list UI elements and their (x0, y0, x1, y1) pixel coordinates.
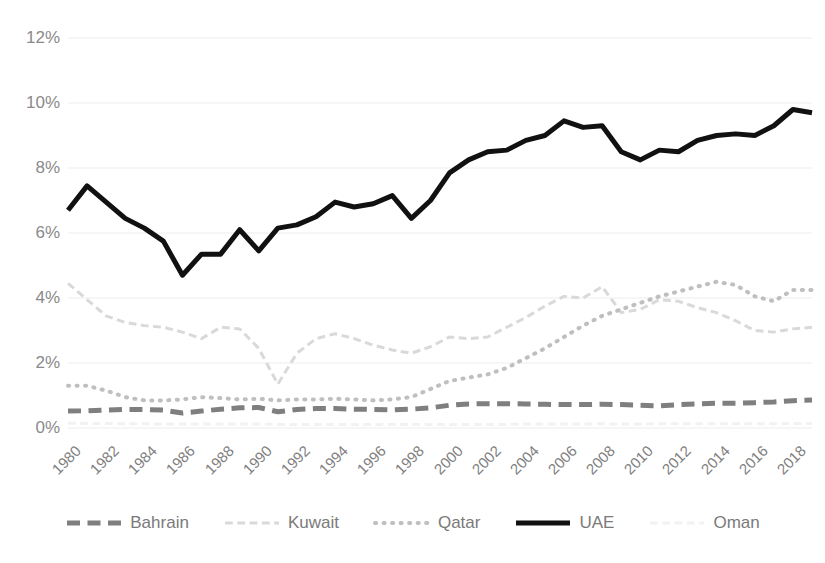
legend-label: Kuwait (288, 513, 339, 533)
x-tick-label: 2002 (463, 442, 503, 482)
x-tick-label: 2016 (730, 442, 770, 482)
x-tick-label: 2014 (692, 442, 732, 482)
legend-label: Bahrain (130, 513, 189, 533)
x-tick-label: 2012 (654, 442, 694, 482)
legend-item-kuwait[interactable]: Kuwait (223, 508, 339, 538)
chart-legend: BahrainKuwaitQatarUAEOman (0, 505, 825, 541)
legend-label: UAE (579, 513, 614, 533)
x-tick-label: 2018 (769, 442, 809, 482)
x-axis: 1980198219841986198819901992199419961998… (0, 0, 825, 563)
legend-item-uae[interactable]: UAE (514, 508, 614, 538)
x-tick-label: 2008 (578, 442, 618, 482)
solid-marker (514, 516, 572, 530)
x-tick-label: 1988 (196, 442, 236, 482)
x-tick-label: 1984 (120, 442, 160, 482)
x-tick-label: 1998 (387, 442, 427, 482)
x-tick-label: 2010 (616, 442, 656, 482)
x-tick-label: 2004 (502, 442, 542, 482)
dot-marker (373, 516, 431, 530)
x-tick-label: 1996 (349, 442, 389, 482)
x-tick-label: 2000 (425, 442, 465, 482)
dash-marker-faint (648, 516, 706, 530)
x-tick-label: 1986 (158, 442, 198, 482)
x-tick-label: 1982 (82, 442, 122, 482)
x-tick-label: 1992 (273, 442, 313, 482)
legend-item-oman[interactable]: Oman (648, 508, 759, 538)
x-tick-label: 2006 (540, 442, 580, 482)
line-chart: 12%10%8%6%4%2%0% 19801982198419861988199… (0, 0, 825, 563)
legend-label: Oman (713, 513, 759, 533)
x-tick-label: 1994 (311, 442, 351, 482)
legend-item-qatar[interactable]: Qatar (373, 508, 481, 538)
legend-item-bahrain[interactable]: Bahrain (65, 508, 189, 538)
dash-marker-light (223, 516, 281, 530)
x-tick-label: 1990 (234, 442, 274, 482)
dash-marker-dark (65, 516, 123, 530)
legend-label: Qatar (438, 513, 481, 533)
x-tick-label: 1980 (44, 442, 84, 482)
